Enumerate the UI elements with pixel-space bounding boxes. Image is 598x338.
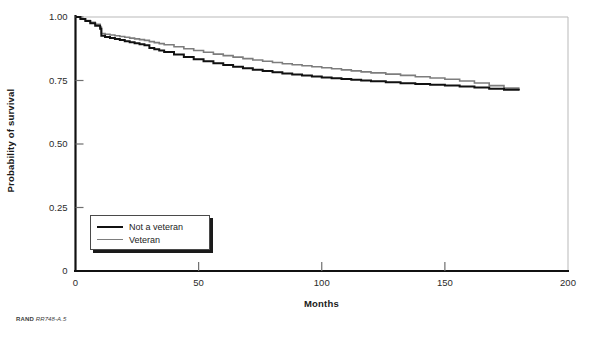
legend-label-veteran: Veteran: [129, 235, 160, 245]
survival-curve-figure: Probability of survival Months 00.250.50…: [0, 0, 598, 338]
y-tick-label: 1.00: [34, 11, 68, 22]
x-tick-label: 0: [56, 277, 96, 288]
x-axis-ticks: [199, 262, 445, 271]
y-axis-label: Probability of survival: [6, 88, 17, 192]
legend-line-icon-not-a-veteran: [97, 226, 123, 228]
legend-item-not-a-veteran[interactable]: Not a veteran: [97, 220, 203, 233]
y-tick-label: 0.25: [34, 202, 68, 213]
survival-curves: [76, 17, 519, 90]
y-tick-label: 0.50: [34, 138, 68, 149]
x-tick-label: 150: [425, 277, 465, 288]
y-tick-label: 0: [34, 265, 68, 276]
x-tick-label: 200: [548, 277, 588, 288]
chart-legend[interactable]: Not a veteran Veteran: [90, 215, 210, 250]
figure-credit: RAND RR748-A.5: [16, 316, 66, 322]
x-axis-label: Months: [75, 298, 568, 309]
legend-label-not-a-veteran: Not a veteran: [129, 222, 183, 232]
x-tick-label: 100: [302, 277, 342, 288]
credit-org: RAND: [16, 316, 34, 322]
legend-item-veteran[interactable]: Veteran: [97, 233, 203, 246]
y-tick-label: 0.75: [34, 75, 68, 86]
x-tick-label: 50: [179, 277, 219, 288]
y-axis-ticks: [76, 17, 84, 208]
y-axis-label-container: Probability of survival: [0, 0, 22, 280]
legend-line-icon-veteran: [97, 239, 123, 240]
credit-id: RR748-A.5: [36, 316, 67, 322]
survival-curve-veteran: [76, 17, 519, 90]
